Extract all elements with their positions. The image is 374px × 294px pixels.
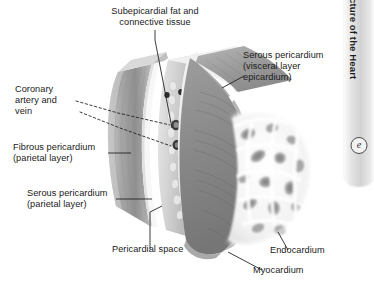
circled-e-icon[interactable]: e (351, 137, 368, 154)
label-subepicardial-fat: Subepicardial fat and connective tissue (88, 6, 222, 28)
label-pericardial-space: Pericardial space (112, 244, 202, 255)
figure-canvas: Subepicardial fat and connective tissue … (0, 0, 374, 294)
label-endocardium: Endocardium (270, 245, 350, 256)
label-myocardium: Myocardium (253, 265, 333, 276)
animation-tab-label: Animation: Structure of the Heart (348, 0, 359, 79)
label-fibrous-pericardium: Fibrous pericardium (parietal layer) (13, 142, 133, 164)
label-coronary-artery-vein: Coronary artery and vein (15, 84, 81, 118)
label-serous-pericardium-parietal: Serous pericardium (parietal layer) (27, 188, 147, 210)
animation-side-tab[interactable]: Animation: Structure of the Heart e (344, 0, 374, 186)
